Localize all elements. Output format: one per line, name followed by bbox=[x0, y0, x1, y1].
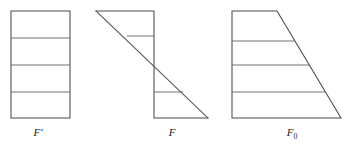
figure-f-zero-label-subscript: 0 bbox=[293, 132, 297, 141]
figure-f-zero-dividers bbox=[232, 41, 325, 92]
figure-f-prime-label-prime: ′ bbox=[40, 126, 43, 138]
figure-f-prime: F′ bbox=[11, 11, 70, 138]
figure-f-label-base: F bbox=[168, 126, 176, 138]
figure-f-prime-outline bbox=[11, 11, 70, 118]
geometry-figures-canvas: F′ F F0 bbox=[0, 0, 354, 145]
figure-f-prime-label: F′ bbox=[32, 126, 43, 138]
figure-f-zero: F0 bbox=[232, 11, 341, 141]
figure-f-prime-dividers bbox=[11, 38, 70, 92]
figure-f-dividers bbox=[127, 36, 183, 92]
figure-f: F bbox=[96, 11, 208, 138]
figure-panel: F′ F F0 bbox=[0, 0, 354, 145]
figure-f-zero-outline bbox=[232, 11, 341, 118]
figure-f-zero-label: F0 bbox=[286, 126, 298, 141]
figure-f-diagonal bbox=[96, 11, 208, 118]
figure-f-label: F bbox=[168, 126, 176, 138]
